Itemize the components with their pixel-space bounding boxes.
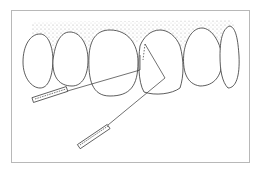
tooth-2 bbox=[53, 32, 88, 86]
tooth-3 bbox=[89, 30, 138, 96]
tooth-4 bbox=[139, 30, 183, 94]
dental-illustration bbox=[0, 0, 264, 173]
tooth-1 bbox=[23, 34, 53, 88]
tooth-6 bbox=[220, 26, 239, 88]
